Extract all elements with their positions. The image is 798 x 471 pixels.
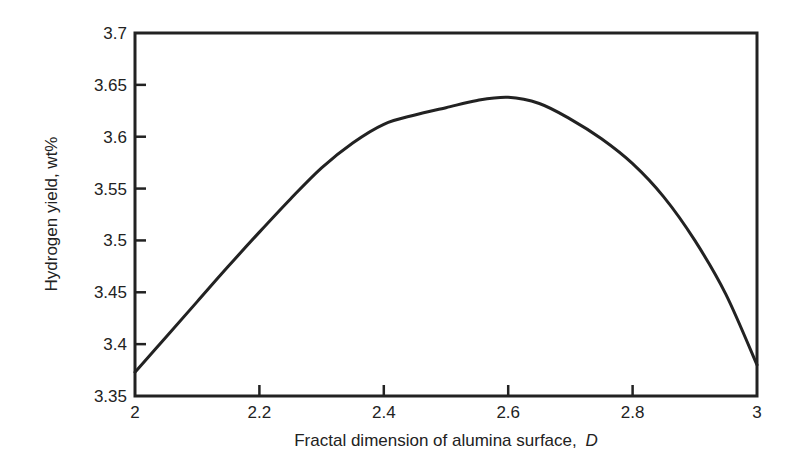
- y-tick-label: 3.6: [103, 128, 127, 147]
- y-axis-title: Hydrogen yield, wt%: [42, 137, 61, 292]
- x-tick-label: 2.8: [621, 403, 645, 422]
- plot-frame: [135, 33, 757, 396]
- y-tick-label: 3.55: [94, 180, 127, 199]
- y-tick-label: 3.5: [103, 231, 127, 250]
- x-tick-label: 2.2: [248, 403, 272, 422]
- x-tick-label: 2.4: [372, 403, 396, 422]
- x-axis-ticks: 22.22.42.62.83: [130, 385, 761, 422]
- line-chart: 3.353.43.453.53.553.63.653.7 22.22.42.62…: [0, 0, 798, 471]
- hydrogen-yield-curve: [135, 97, 757, 372]
- y-tick-label: 3.7: [103, 24, 127, 43]
- x-axis-title-symbol: D: [585, 431, 597, 450]
- plot-border: [135, 33, 757, 396]
- y-tick-label: 3.35: [94, 387, 127, 406]
- y-tick-label: 3.65: [94, 76, 127, 95]
- x-tick-label: 3: [752, 403, 761, 422]
- x-tick-label: 2: [130, 403, 139, 422]
- x-axis-title-text: Fractal dimension of alumina surface,: [294, 431, 577, 450]
- y-tick-label: 3.45: [94, 283, 127, 302]
- y-tick-label: 3.4: [103, 335, 127, 354]
- x-axis-title: Fractal dimension of alumina surface, D: [294, 431, 598, 450]
- x-tick-label: 2.6: [496, 403, 520, 422]
- y-axis-ticks: 3.353.43.453.53.553.63.653.7: [94, 24, 146, 406]
